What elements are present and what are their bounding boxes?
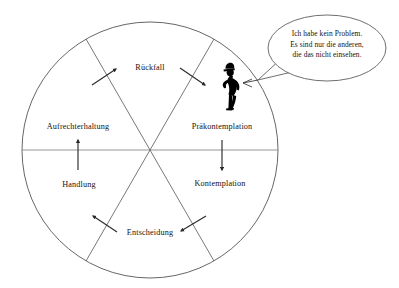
speech-bubble-line-3: die das nicht einsehen. — [268, 50, 386, 61]
sector-label-rueckfall: Rückfall — [135, 63, 164, 72]
sector-label-kontemplation: Kontemplation — [194, 179, 245, 188]
diagram-canvas: Rückfall Präkontemplation Kontemplation … — [0, 0, 399, 288]
speech-bubble-line-2: Es sind nur die anderen, — [268, 40, 386, 51]
sector-label-praekontemplation: Präkontemplation — [192, 122, 253, 131]
sector-label-entscheidung: Entscheidung — [127, 228, 173, 237]
speech-bubble-line-1: Ich habe kein Problem. — [268, 29, 386, 40]
speech-bubble-text: Ich habe kein Problem. Es sind nur die a… — [268, 29, 386, 61]
sector-label-aufrechterhaltung: Aufrechterhaltung — [47, 122, 110, 131]
sector-label-handlung: Handlung — [62, 180, 96, 189]
